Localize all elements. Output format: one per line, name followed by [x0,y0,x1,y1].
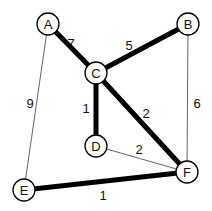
node-f: F [176,161,198,183]
node-label: A [44,17,53,32]
edge-weight-c-f: 2 [142,106,149,121]
edge-weight-b-f: 6 [193,96,200,111]
node-label: E [20,183,29,198]
node-label: C [91,66,100,81]
edge-weight-a-e: 9 [26,96,33,111]
edge-layer [24,24,188,190]
node-label: B [184,17,193,32]
graph-diagram: 75121962 ABCDEF [0,0,212,211]
edge-weight-c-b: 5 [125,38,132,53]
node-c: C [85,62,107,84]
edge-weight-d-f: 2 [135,142,142,157]
node-e: E [13,179,35,201]
edge-b-f [187,24,188,172]
edge-c-b [96,24,188,73]
edge-c-f [96,73,187,172]
node-d: D [85,135,107,157]
edge-weight-c-d: 1 [82,101,89,116]
weight-label-layer: 75121962 [26,36,200,203]
node-a: A [37,13,59,35]
node-label: D [91,139,100,154]
edge-weight-a-c: 7 [67,36,74,51]
edge-weight-e-f: 1 [99,188,106,203]
node-b: B [177,13,199,35]
node-label: F [183,165,191,180]
